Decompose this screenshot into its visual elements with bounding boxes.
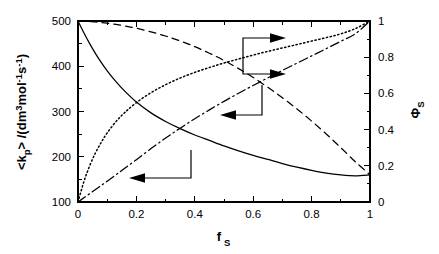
y-left-tick-label: 100	[52, 196, 71, 208]
x-tick-label: 0.6	[245, 208, 261, 220]
curve-solid	[78, 21, 370, 176]
y-axis-left-title: <kp> /(dm3mol-1s-1)	[13, 54, 32, 170]
curve-dashed	[78, 21, 370, 175]
right-axis-arrow-upper	[243, 33, 286, 64]
x-tick-label: 0.8	[304, 208, 320, 220]
x-axis-title: f S	[217, 229, 231, 248]
x-tick-label: 0.4	[187, 208, 204, 220]
y-right-tick-label: 0	[378, 196, 384, 208]
x-axis-title-subscript: S	[224, 237, 230, 248]
y-right-tick-label: 1	[378, 15, 384, 27]
chart-figure: 00.20.40.60.8110020030040050000.20.40.60…	[0, 0, 439, 254]
y-axis-right-title: ΦS	[408, 101, 426, 118]
y-right-tick-label: 0.8	[378, 51, 394, 63]
x-tick-label: 0	[75, 208, 81, 220]
svg-text:<kp> /(dm3mol-1s-1): <kp> /(dm3mol-1s-1)	[13, 54, 32, 170]
svg-text:ΦS: ΦS	[408, 101, 426, 118]
chart-plot-area: 00.20.40.60.8110020030040050000.20.40.60…	[0, 0, 439, 254]
left-axis-arrow-lower	[129, 150, 191, 183]
x-axis-title-base: f	[217, 229, 222, 244]
y-left-tick-label: 500	[52, 15, 71, 27]
x-tick-label: 1	[367, 208, 373, 220]
axis-tick-labels: 00.20.40.60.8110020030040050000.20.40.60…	[52, 15, 395, 220]
left-axis-arrow-upper	[220, 85, 262, 120]
data-curves	[78, 21, 370, 202]
y-left-tick-label: 400	[52, 60, 71, 72]
y-right-tick-label: 0.6	[378, 87, 394, 99]
curve-dashdot	[78, 21, 370, 202]
y-left-tick-label: 300	[52, 106, 71, 118]
annotation-arrows	[129, 33, 286, 183]
x-tick-label: 0.2	[128, 208, 144, 220]
y-right-tick-label: 0.2	[378, 160, 394, 172]
y-right-tick-label: 0.4	[378, 124, 395, 136]
y-left-tick-label: 200	[52, 151, 71, 163]
